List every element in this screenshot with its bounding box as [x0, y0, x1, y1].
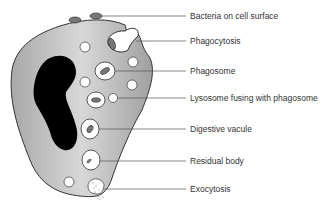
label-exocytosis: Exocytosis	[190, 184, 231, 194]
lysosome-fusing	[109, 94, 118, 103]
bacterium-surface-1	[69, 17, 81, 23]
label-lysosome-fusing: Lysosome fusing with phagosome	[190, 93, 318, 103]
label-phagosome: Phagosome	[190, 66, 235, 76]
label-digestive-vacuole: Digestive vacule	[190, 124, 252, 134]
label-phagocytosis: Phagocytosis	[190, 36, 241, 46]
label-residual-body: Residual body	[190, 156, 244, 166]
lysosome	[80, 42, 90, 52]
label-bacteria: Bacteria on cell surface	[190, 11, 278, 21]
lysosome	[127, 80, 137, 90]
lysosome	[128, 57, 138, 67]
lysosome	[80, 77, 90, 87]
fusing-bacterium	[92, 98, 101, 102]
cell-diagram	[0, 0, 324, 209]
lysosome	[64, 177, 74, 187]
